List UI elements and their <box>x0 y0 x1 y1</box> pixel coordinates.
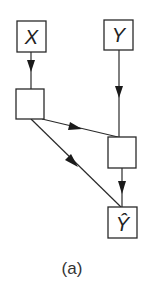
node-hidden-1 <box>16 89 44 119</box>
arrowhead-icon <box>68 122 82 130</box>
node-y: Y <box>104 20 133 50</box>
node-x: X <box>17 21 46 52</box>
arrowhead-icon <box>118 181 126 194</box>
edge-x-to-h1 <box>27 52 35 89</box>
arrowhead-icon <box>115 86 123 98</box>
node-hidden-2 <box>108 137 136 168</box>
node-yhat: Ŷ <box>108 207 137 238</box>
node-x-label: X <box>24 26 39 48</box>
edge-h2-to-yhat <box>118 168 126 207</box>
arrowhead-icon <box>27 60 35 72</box>
edge-h1-to-h2 <box>42 119 118 137</box>
figure-caption: (a) <box>62 259 83 278</box>
node-y-label: Y <box>112 24 127 46</box>
node-yhat-label: Ŷ <box>116 213 131 235</box>
arrowhead-icon <box>65 154 78 167</box>
network-diagram: X Y Ŷ (a) <box>0 0 155 292</box>
edge-y-to-h2 <box>115 50 123 137</box>
